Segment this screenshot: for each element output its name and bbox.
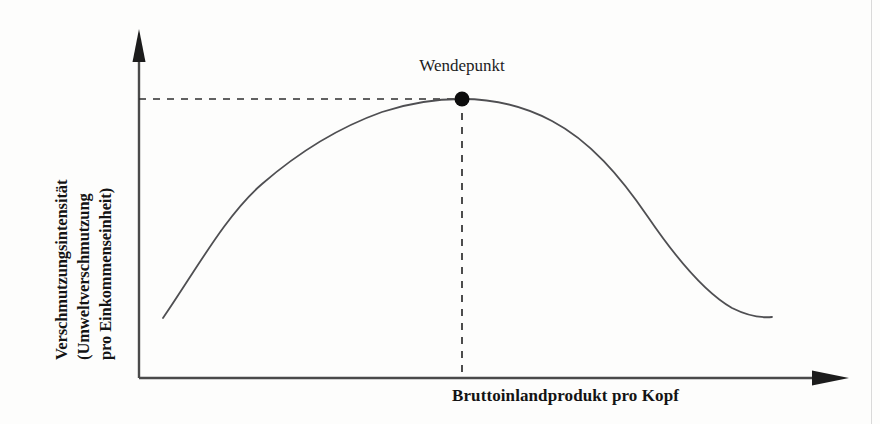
x-axis-arrowhead-icon: [812, 371, 849, 386]
kuznets-curve-path: [163, 99, 772, 318]
page-edge-line: [871, 0, 872, 424]
figure-canvas: Verschmutzungsintensität (Umweltverschmu…: [0, 0, 880, 424]
turning-point-annotation-label: Wendepunkt: [330, 56, 594, 76]
turning-point-marker-icon: [455, 92, 470, 107]
x-axis-label: Bruttoinlandprodukt pro Kopf: [452, 386, 679, 406]
y-axis-arrowhead-icon: [133, 29, 146, 62]
